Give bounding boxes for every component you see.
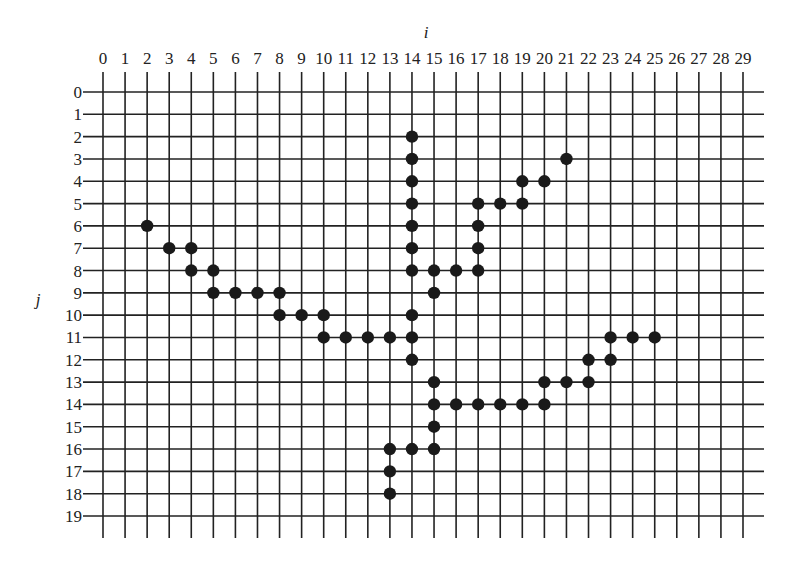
pixel-dot	[406, 354, 418, 366]
column-label: 23	[602, 49, 619, 68]
column-label: 8	[275, 49, 284, 68]
column-label: 6	[231, 49, 240, 68]
row-label: 7	[74, 239, 83, 258]
pixel-dot	[626, 331, 638, 343]
pixel-dot	[649, 331, 661, 343]
pixel-dot	[516, 197, 528, 209]
column-label: 24	[624, 49, 642, 68]
pixel-dot	[494, 398, 506, 410]
axis-i-label: i	[424, 23, 429, 42]
pixel-dot	[141, 220, 153, 232]
pixel-dot	[273, 309, 285, 321]
pixel-dot	[207, 264, 219, 276]
row-label: 12	[65, 351, 82, 370]
pixel-dot	[229, 287, 241, 299]
pixel-dot	[185, 264, 197, 276]
row-label: 3	[74, 150, 83, 169]
column-label: 16	[448, 49, 465, 68]
pixel-dot	[428, 376, 440, 388]
pixel-dot	[582, 354, 594, 366]
pixel-dot	[384, 443, 396, 455]
pixel-dot	[406, 197, 418, 209]
pixel-dot	[560, 376, 572, 388]
column-label: 5	[209, 49, 218, 68]
row-label: 0	[74, 83, 83, 102]
column-label: 3	[165, 49, 174, 68]
column-label: 26	[668, 49, 685, 68]
row-label: 15	[65, 418, 82, 437]
column-label: 19	[514, 49, 531, 68]
pixel-dot	[384, 331, 396, 343]
row-label: 11	[66, 328, 82, 347]
column-label: 0	[99, 49, 108, 68]
pixel-dot	[538, 376, 550, 388]
pixel-dot	[185, 242, 197, 254]
horizontal-grid-lines	[83, 92, 764, 516]
row-label: 18	[65, 485, 82, 504]
row-labels: 012345678910111213141516171819	[65, 83, 83, 526]
row-label: 19	[65, 507, 82, 526]
column-label: 7	[253, 49, 262, 68]
pixel-dot	[428, 443, 440, 455]
pixel-dot	[516, 175, 528, 187]
column-label: 20	[536, 49, 553, 68]
column-label: 15	[426, 49, 443, 68]
column-label: 14	[403, 49, 421, 68]
column-label: 18	[492, 49, 509, 68]
pixel-dot	[428, 287, 440, 299]
column-label: 2	[143, 49, 152, 68]
pixel-dot	[450, 398, 462, 410]
pixel-dot	[428, 398, 440, 410]
row-label: 4	[74, 172, 83, 191]
row-label: 16	[65, 440, 82, 459]
row-label: 17	[65, 462, 83, 481]
pixel-dot	[560, 153, 572, 165]
column-label: 10	[315, 49, 332, 68]
row-label: 5	[74, 195, 83, 214]
column-label: 4	[187, 49, 196, 68]
axis-j-label: j	[34, 290, 41, 309]
pixel-dot	[406, 309, 418, 321]
pixel-dot	[406, 242, 418, 254]
pixel-dot	[472, 197, 484, 209]
pixel-dot	[273, 287, 285, 299]
column-label: 25	[646, 49, 663, 68]
row-label: 6	[74, 217, 83, 236]
pixel-dot	[472, 242, 484, 254]
pixel-dot	[295, 309, 307, 321]
column-label: 21	[558, 49, 575, 68]
pixel-dot	[362, 331, 374, 343]
pixel-dot	[406, 130, 418, 142]
pixel-dot	[604, 354, 616, 366]
column-label: 22	[580, 49, 597, 68]
pixel-dot	[472, 264, 484, 276]
pixel-dot	[406, 443, 418, 455]
column-label: 12	[359, 49, 376, 68]
column-label: 13	[381, 49, 398, 68]
pixel-dot	[251, 287, 263, 299]
pixel-dot	[538, 175, 550, 187]
pixel-dot	[340, 331, 352, 343]
pixel-dot	[516, 398, 528, 410]
pixel-grid-diagram: 0123456789101112131415161718192021222324…	[0, 0, 801, 566]
row-label: 2	[74, 128, 83, 147]
column-label: 9	[297, 49, 306, 68]
row-label: 13	[65, 373, 82, 392]
row-label: 8	[74, 262, 83, 281]
column-label: 27	[690, 49, 708, 68]
pixel-dot	[384, 487, 396, 499]
row-label: 10	[65, 306, 82, 325]
pixel-dot	[472, 220, 484, 232]
column-label: 1	[121, 49, 130, 68]
column-label: 17	[470, 49, 488, 68]
column-label: 11	[338, 49, 354, 68]
pixel-dot	[406, 331, 418, 343]
pixel-dot	[582, 376, 594, 388]
pixel-dot	[450, 264, 462, 276]
row-label: 9	[74, 284, 83, 303]
row-label: 1	[74, 105, 83, 124]
vertical-grid-lines	[103, 72, 743, 538]
pixel-dot	[428, 421, 440, 433]
pixel-dot	[472, 398, 484, 410]
pixel-dot	[406, 264, 418, 276]
